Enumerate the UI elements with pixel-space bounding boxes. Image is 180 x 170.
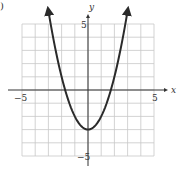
x-tick-label: −5 xyxy=(14,93,28,103)
y-axis-label: y xyxy=(88,2,95,12)
x-axis-label: x xyxy=(171,85,176,95)
parabola-graph: ) xy−555−5 xyxy=(0,0,180,170)
tick-labels: xy−555−5 xyxy=(14,2,176,162)
x-tick-label: 5 xyxy=(152,93,158,103)
axes xyxy=(8,16,166,166)
y-tick-label: −5 xyxy=(77,152,91,162)
part-label: ) xyxy=(0,0,4,11)
y-tick-label: 5 xyxy=(81,20,87,30)
